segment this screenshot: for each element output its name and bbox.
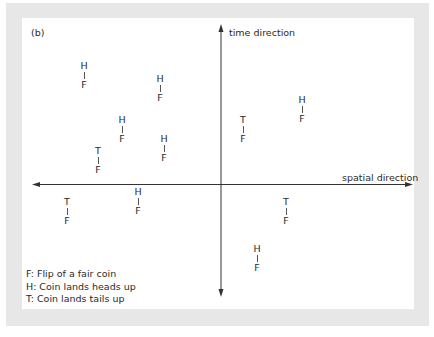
flip-label: F	[61, 216, 73, 226]
arrow-left-icon	[32, 182, 40, 187]
outcome-label: H	[132, 187, 144, 197]
causal-link	[138, 198, 139, 205]
event-marker: HF	[251, 244, 263, 273]
flip-label: F	[154, 93, 166, 103]
flip-label: F	[251, 263, 263, 273]
event-marker: HF	[154, 74, 166, 103]
arrow-down-icon	[219, 289, 224, 297]
event-marker: TF	[92, 146, 104, 175]
flip-label: F	[78, 80, 90, 90]
flip-label: F	[280, 216, 292, 226]
flip-label: F	[92, 165, 104, 175]
causal-link	[160, 85, 161, 92]
causal-link	[302, 106, 303, 113]
outcome-label: T	[237, 115, 249, 125]
event-marker: TF	[280, 197, 292, 226]
outcome-label: H	[158, 134, 170, 144]
event-marker: TF	[61, 197, 73, 226]
legend-item-flip: F: Flip of a fair coin	[26, 268, 136, 281]
flip-label: F	[116, 134, 128, 144]
event-marker: HF	[78, 61, 90, 90]
causal-link	[257, 255, 258, 262]
arrow-up-icon	[219, 24, 224, 32]
causal-link	[164, 145, 165, 152]
event-marker: HF	[132, 187, 144, 216]
flip-label: F	[132, 206, 144, 216]
outcome-label: H	[251, 244, 263, 254]
event-marker: HF	[296, 95, 308, 124]
panel-label: (b)	[31, 27, 44, 38]
spatial-direction-label: spatial direction	[342, 172, 418, 183]
flip-label: F	[158, 153, 170, 163]
outcome-label: T	[280, 197, 292, 207]
legend-item-tails: T: Coin lands tails up	[26, 293, 136, 306]
causal-link	[243, 126, 244, 133]
legend-item-heads: H: Coin lands heads up	[26, 281, 136, 294]
event-marker: HF	[158, 134, 170, 163]
outcome-label: H	[296, 95, 308, 105]
outcome-label: H	[116, 115, 128, 125]
outcome-label: H	[154, 74, 166, 84]
causal-link	[286, 208, 287, 215]
causal-link	[84, 72, 85, 79]
event-marker: TF	[237, 115, 249, 144]
causal-link	[67, 208, 68, 215]
flip-label: F	[296, 114, 308, 124]
causal-link	[98, 157, 99, 164]
event-marker: HF	[116, 115, 128, 144]
outcome-label: T	[92, 146, 104, 156]
legend: F: Flip of a fair coin H: Coin lands hea…	[26, 268, 136, 306]
flip-label: F	[237, 134, 249, 144]
outcome-label: H	[78, 61, 90, 71]
outcome-label: T	[61, 197, 73, 207]
causal-link	[122, 126, 123, 133]
time-direction-label: time direction	[229, 27, 295, 38]
